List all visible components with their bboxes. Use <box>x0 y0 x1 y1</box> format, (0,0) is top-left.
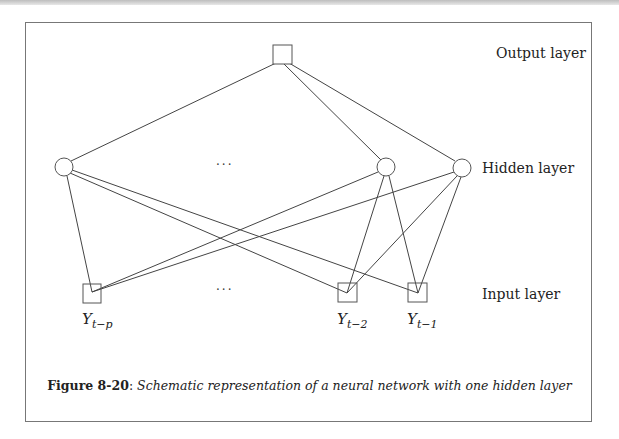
hidden-layer-label: Hidden layer <box>482 160 574 176</box>
hidden-node-2 <box>377 158 395 176</box>
input-label-t-p: Yt−p <box>82 310 113 331</box>
edge-hidden1-input1 <box>67 176 92 292</box>
input-ellipsis: ··· <box>216 283 233 297</box>
figure-caption: Figure 8-20: Schematic representation of… <box>0 378 619 393</box>
edge-hidden2-input1 <box>92 172 378 292</box>
network-diagram <box>0 0 619 439</box>
edge-output-hidden3 <box>289 63 455 161</box>
caption-text: Schematic representation of a neural net… <box>137 378 572 393</box>
hidden-node-1 <box>55 158 73 176</box>
input-label-t-1: Yt−1 <box>407 310 438 331</box>
edge-hidden2-input3 <box>389 176 418 293</box>
edge-hidden3-input2 <box>347 176 457 293</box>
edge-hidden3-input1 <box>92 172 454 292</box>
output-layer-label: Output layer <box>496 45 586 61</box>
edge-hidden1-input2 <box>70 173 347 293</box>
input-layer-label: Input layer <box>482 286 560 302</box>
caption-label: Figure 8-20 <box>47 378 129 393</box>
hidden-ellipsis: ··· <box>216 158 233 172</box>
edge-output-hidden2 <box>284 64 381 160</box>
input-node-1 <box>83 284 101 303</box>
input-label-t-2: Yt−2 <box>337 310 368 331</box>
edge-hidden2-input2 <box>347 176 384 293</box>
edge-output-hidden1 <box>71 63 276 161</box>
output-node <box>273 45 292 64</box>
hidden-node-3 <box>453 159 471 177</box>
